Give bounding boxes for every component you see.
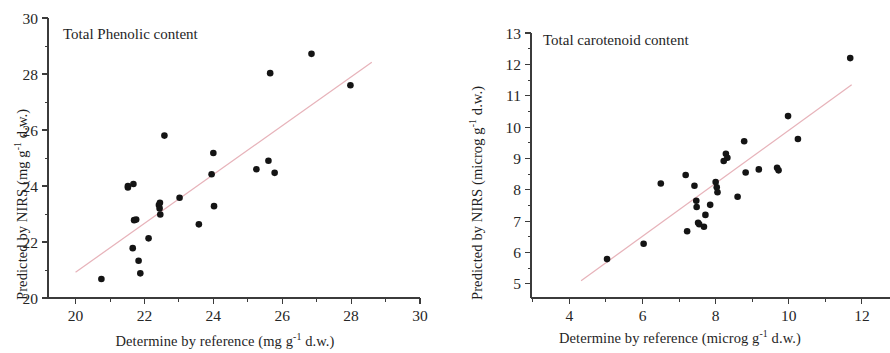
y-axis-tick-label: 13 [506,25,522,42]
y-axis-tick-label: 11 [506,87,521,104]
data-point [734,193,741,200]
data-point [210,150,217,157]
data-point [308,51,315,58]
data-point [604,256,611,263]
data-point [137,270,144,277]
data-point [135,257,142,264]
x-axis-tick-label: 8 [712,307,720,324]
data-point [724,155,731,162]
data-point [702,212,709,219]
x-axis-title: Determine by reference (microg g-1 d.w.) [500,330,860,347]
y-axis-tick-label: 10 [506,119,522,136]
x-axis-tick-label: 28 [343,307,359,324]
y-axis-title: Predicted by NIRS (mg g-1 d.w.) [14,109,31,300]
data-point [157,200,164,207]
chart-panel-total-carotenoid: 56789101112134681012 Total carotenoid co… [445,0,890,353]
data-point [253,166,260,173]
data-point [701,224,708,231]
x-axis-title: Determine by reference (mg g-1 d.w.) [60,333,390,350]
data-point [742,169,749,176]
data-point [682,172,689,179]
y-axis-tick-label: 8 [513,181,521,198]
data-point [145,235,152,242]
x-axis-tick-label: 10 [781,307,797,324]
y-axis-tick-label: 12 [506,56,522,73]
data-point [161,132,168,139]
x-axis-tick-label: 26 [274,307,290,324]
data-point [271,170,278,177]
data-point [691,182,698,189]
data-point [98,276,105,283]
y-axis-tick-label: 28 [23,66,39,83]
chart-annotation-title: Total Phenolic content [63,26,198,43]
data-point [156,205,163,212]
y-axis-tick-label: 5 [513,275,521,292]
data-point [795,136,802,143]
regression-line [76,62,372,272]
data-point [347,82,354,89]
chart-panel-total-phenolic: 202224262830202224262830 Total Phenolic … [0,0,445,353]
x-axis-tick-label: 24 [206,307,222,324]
x-axis-tick-label: 12 [854,307,870,324]
data-point [741,138,748,145]
y-axis-title: Predicted by NIRS (microg g-1 d.w.) [469,86,486,300]
x-axis-tick-label: 4 [566,307,574,324]
data-point [693,197,700,204]
data-point [130,181,137,188]
y-axis-tick-label: 6 [513,244,521,261]
data-point [714,189,721,196]
data-point [707,202,714,209]
data-point [176,194,183,201]
y-axis-tick-label: 30 [23,10,39,27]
x-axis-tick-label: 30 [412,307,428,324]
data-point [693,204,700,211]
data-point [133,216,140,223]
scatter-plot-total-phenolic: 202224262830202224262830 [0,0,445,353]
y-axis-tick-label: 9 [513,150,521,167]
data-point [785,113,792,120]
data-point [756,166,763,173]
data-point [157,211,164,218]
data-point [265,158,272,165]
data-point [684,228,691,235]
data-point [196,221,203,228]
data-point [658,180,665,187]
data-point [129,245,136,252]
figure-container: 202224262830202224262830 Total Phenolic … [0,0,890,353]
x-axis-tick-label: 20 [68,307,84,324]
y-axis-tick-label: 7 [513,213,521,230]
data-point [211,203,218,210]
scatter-plot-total-carotenoid: 56789101112134681012 [445,0,890,353]
data-point [208,171,215,178]
data-point [267,70,274,77]
data-point [847,55,854,62]
data-point [640,240,647,247]
x-axis-tick-label: 6 [639,307,647,324]
data-point [775,167,782,174]
x-axis-tick-label: 22 [137,307,153,324]
chart-annotation-title: Total carotenoid content [543,32,689,49]
